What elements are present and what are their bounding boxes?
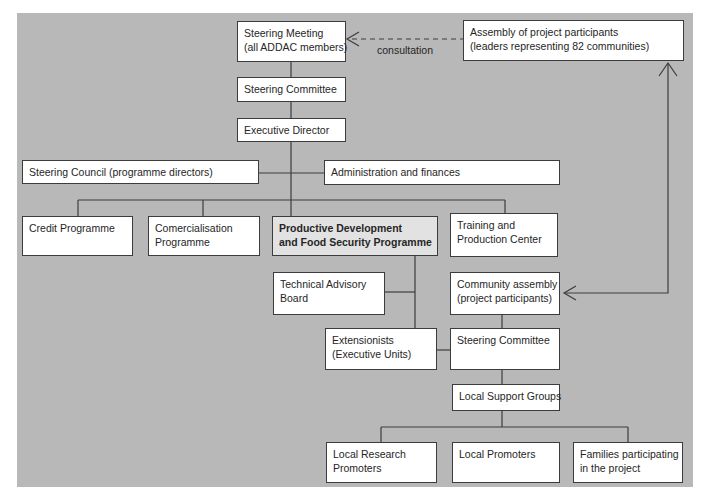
node-label: Promoters — [333, 461, 430, 475]
node-label: Local Promoters — [459, 447, 553, 461]
node-administration-finances: Administration and finances — [324, 160, 560, 185]
node-local-steering-committee: Steering Committee — [450, 328, 560, 370]
node-local-support-groups: Local Support Groups — [452, 384, 560, 411]
node-steering-council: Steering Council (programme directors) — [22, 160, 259, 184]
node-label: Steering Committee — [457, 333, 553, 347]
node-label: Families participating — [580, 447, 676, 461]
node-label: (leaders representing 82 communities) — [470, 39, 677, 53]
node-credit-programme: Credit Programme — [22, 216, 133, 256]
node-label: Assembly of project participants — [470, 25, 677, 39]
node-label: and Food Security Programme — [279, 235, 431, 249]
node-training-production-center: Training and Production Center — [450, 213, 558, 257]
node-label: Administration and finances — [331, 165, 553, 179]
node-label: in the project — [580, 461, 676, 475]
node-productive-development-programme: Productive Development and Food Security… — [272, 216, 438, 256]
node-label: Executive Director — [244, 123, 339, 137]
node-label: (all ADDAC members) — [244, 40, 339, 54]
node-steering-meeting: Steering Meeting (all ADDAC members) — [237, 21, 346, 62]
node-label: Credit Programme — [29, 221, 126, 235]
node-label: Steering Council (programme directors) — [29, 165, 252, 179]
node-label: Steering Committee — [244, 82, 339, 96]
node-comercialisation-programme: Comercialisation Programme — [148, 216, 260, 256]
node-technical-advisory-board: Technical Advisory Board — [273, 272, 385, 315]
node-steering-committee: Steering Committee — [237, 77, 346, 102]
node-label: (Executive Units) — [332, 347, 430, 361]
node-local-promoters: Local Promoters — [452, 442, 560, 483]
node-label: Local Research — [333, 447, 430, 461]
node-label: Community assembly — [457, 277, 553, 291]
node-families-participating: Families participating in the project — [573, 442, 683, 483]
node-label: Programme — [155, 235, 253, 249]
consultation-label: consultation — [377, 44, 433, 56]
node-label: Extensionists — [332, 333, 430, 347]
node-label: Board — [280, 291, 378, 305]
node-label: Technical Advisory — [280, 277, 378, 291]
node-community-assembly: Community assembly (project participants… — [450, 272, 560, 315]
node-extensionists: Extensionists (Executive Units) — [325, 328, 437, 370]
node-assembly-of-participants: Assembly of project participants (leader… — [463, 20, 684, 61]
node-label: Productive Development — [279, 221, 431, 235]
org-chart-figure: Steering Meeting (all ADDAC members) Ass… — [0, 0, 703, 495]
node-label: Comercialisation — [155, 221, 253, 235]
node-label: (project participants) — [457, 291, 553, 305]
node-executive-director: Executive Director — [237, 118, 346, 142]
community-assembly-feedback-arrow — [564, 63, 677, 300]
node-local-research-promoters: Local Research Promoters — [326, 442, 437, 483]
node-label: Training and — [457, 218, 551, 232]
node-label: Production Center — [457, 232, 551, 246]
node-label: Steering Meeting — [244, 26, 339, 40]
node-label: Local Support Groups — [459, 389, 553, 403]
